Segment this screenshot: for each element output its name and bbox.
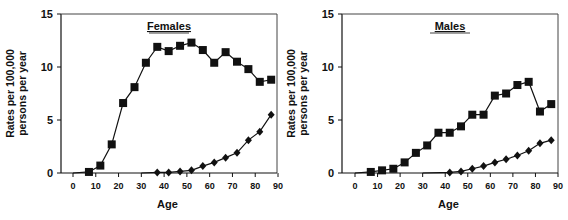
x-tick-label: 40 <box>159 181 169 191</box>
square-marker <box>108 140 116 148</box>
square-marker <box>547 100 555 108</box>
square-marker <box>401 158 409 166</box>
square-marker <box>187 39 195 47</box>
diamond-marker <box>165 168 172 176</box>
square-marker <box>513 81 521 89</box>
square-marker <box>457 122 465 130</box>
diamond-marker <box>177 167 184 175</box>
diamond-marker <box>514 152 521 160</box>
x-axis-label: Age <box>157 198 178 210</box>
males-chart: 0510150102030405060708090MalesAgeRates p… <box>285 8 563 210</box>
diamond-marker <box>222 154 229 162</box>
y-tick-label: 10 <box>322 61 334 73</box>
square-marker <box>434 129 442 137</box>
square-marker <box>131 83 139 91</box>
diamond-marker <box>480 162 487 170</box>
x-tick-label: 0 <box>352 181 357 191</box>
x-tick-label: 90 <box>273 181 283 191</box>
square-marker <box>468 111 476 119</box>
diamond-marker <box>491 158 498 166</box>
square-marker <box>176 42 184 50</box>
diamond-marker <box>199 162 206 170</box>
y-axis-label-line2: persons per year <box>16 51 28 136</box>
x-tick-label: 20 <box>114 181 124 191</box>
square-marker <box>480 111 488 119</box>
square-marker <box>378 166 386 174</box>
x-tick-label: 80 <box>530 181 540 191</box>
x-tick-label: 60 <box>205 181 215 191</box>
y-axis-label-line1: Rates per 100,000 <box>285 49 297 138</box>
series-line-diamonds <box>423 140 552 173</box>
y-tick-label: 10 <box>41 61 53 73</box>
square-marker <box>412 149 420 157</box>
square-marker <box>119 99 127 107</box>
x-tick-label: 20 <box>395 181 405 191</box>
y-axis-label-line2: persons per year <box>297 51 309 136</box>
x-tick-label: 50 <box>182 181 192 191</box>
series-line-squares <box>355 82 551 173</box>
square-marker <box>153 43 161 51</box>
x-tick-label: 80 <box>250 181 260 191</box>
square-marker <box>96 162 104 170</box>
y-tick-label: 15 <box>41 8 53 20</box>
diamond-marker <box>154 168 161 176</box>
diamond-marker <box>503 155 510 163</box>
square-marker <box>367 168 375 176</box>
chart-title: Males <box>435 20 466 32</box>
series-line-diamonds <box>141 115 271 173</box>
females-chart: 0510150102030405060708090FemalesAgeRates… <box>4 8 283 210</box>
square-marker <box>199 46 207 54</box>
chart-title: Females <box>147 20 191 32</box>
square-marker <box>491 92 499 100</box>
y-tick-label: 5 <box>47 114 53 126</box>
x-tick-label: 30 <box>136 181 146 191</box>
diamond-marker <box>536 139 543 147</box>
square-marker <box>525 78 533 86</box>
figure: 0510150102030405060708090FemalesAgeRates… <box>0 0 568 220</box>
square-marker <box>222 48 230 56</box>
square-marker <box>389 165 397 173</box>
x-axis-label: Age <box>438 198 459 210</box>
square-marker <box>423 141 431 149</box>
square-marker <box>446 129 454 137</box>
square-marker <box>502 90 510 98</box>
y-tick-label: 0 <box>47 167 53 179</box>
diamond-marker <box>525 147 532 155</box>
square-marker <box>233 58 241 66</box>
diamond-marker <box>469 165 476 173</box>
x-tick-label: 90 <box>553 181 563 191</box>
square-marker <box>244 65 252 73</box>
diamond-marker <box>211 158 218 166</box>
series-line-squares <box>73 43 271 173</box>
x-tick-label: 60 <box>485 181 495 191</box>
diamond-marker <box>458 167 465 175</box>
square-marker <box>142 59 150 67</box>
y-tick-label: 15 <box>322 8 334 20</box>
square-marker <box>256 78 264 86</box>
x-tick-label: 10 <box>91 181 101 191</box>
charts-canvas: 0510150102030405060708090FemalesAgeRates… <box>0 0 568 220</box>
square-marker <box>536 108 544 116</box>
diamond-marker <box>548 136 555 144</box>
x-tick-label: 0 <box>70 181 75 191</box>
square-marker <box>267 76 275 84</box>
y-axis-label-line1: Rates per 100,000 <box>4 49 16 138</box>
square-marker <box>165 47 173 55</box>
x-tick-label: 30 <box>418 181 428 191</box>
x-tick-label: 70 <box>227 181 237 191</box>
y-tick-label: 5 <box>328 114 334 126</box>
y-tick-label: 0 <box>328 167 334 179</box>
square-marker <box>210 59 218 67</box>
x-tick-label: 10 <box>373 181 383 191</box>
x-tick-label: 40 <box>440 181 450 191</box>
square-marker <box>85 168 93 176</box>
diamond-marker <box>446 168 453 176</box>
x-tick-label: 50 <box>463 181 473 191</box>
x-tick-label: 70 <box>508 181 518 191</box>
